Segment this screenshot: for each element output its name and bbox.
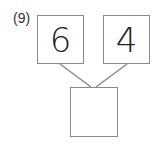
problem-number: (9) xyxy=(13,10,30,26)
answer-box[interactable] xyxy=(70,87,118,137)
right-number: 4 xyxy=(116,23,138,57)
right-number-box: 4 xyxy=(103,15,150,64)
right-connector-line xyxy=(96,64,127,87)
left-number-box: 6 xyxy=(37,15,84,64)
left-connector-line xyxy=(60,64,91,87)
left-number: 6 xyxy=(50,23,72,57)
